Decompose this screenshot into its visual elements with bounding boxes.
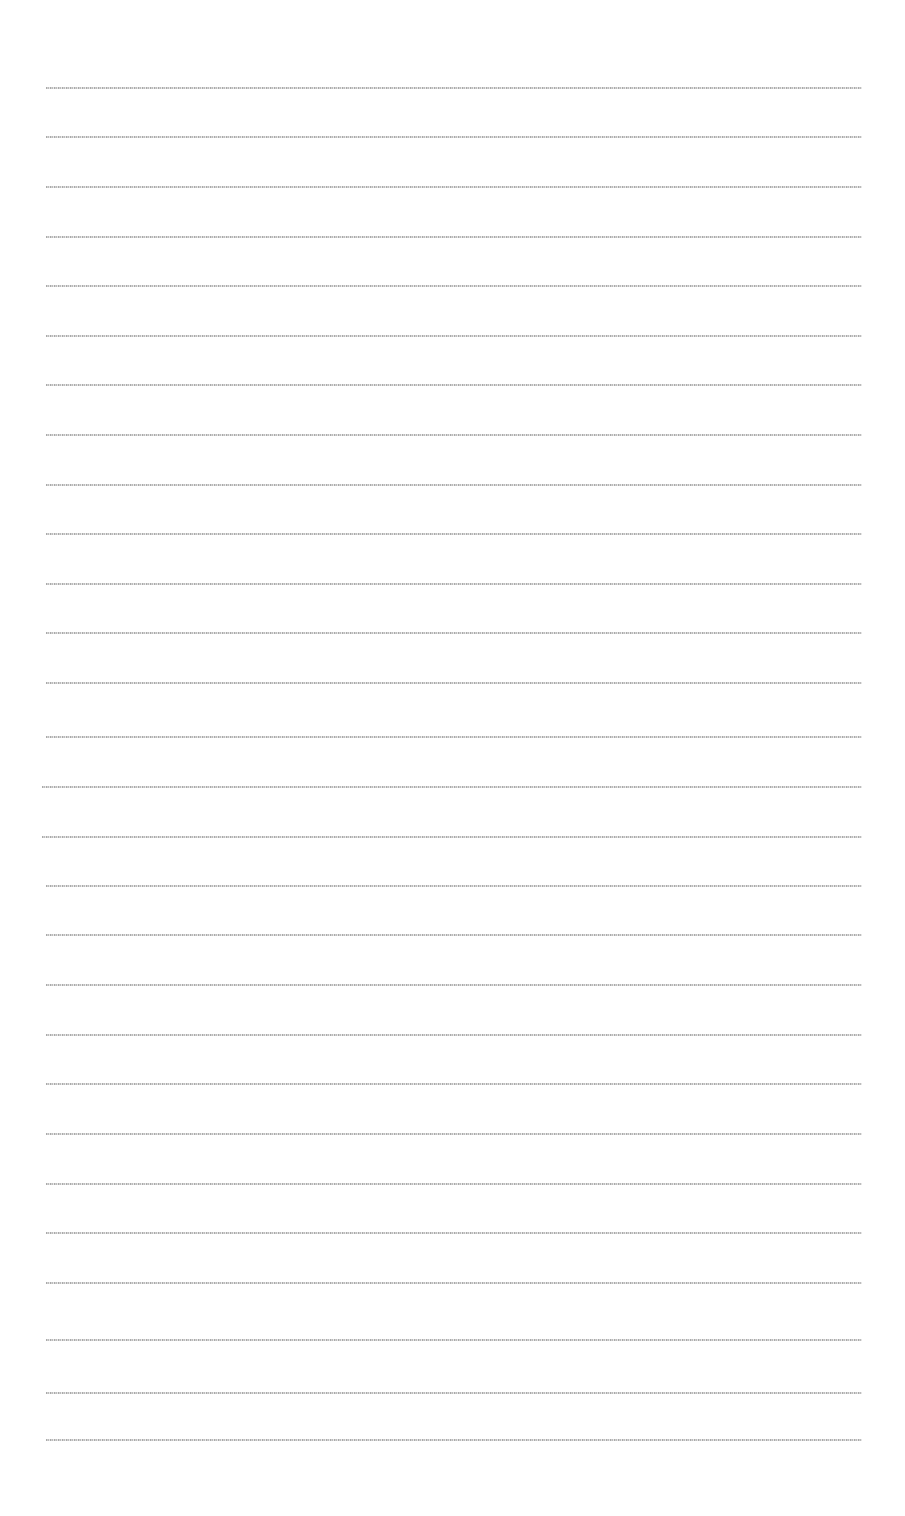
text-line: [illegible]: [46, 1034, 862, 1036]
text-line-content: [illegible]: [46, 1083, 47, 1084]
text-line-content: [illegible]: [46, 186, 47, 187]
text-line-content: [illegible]: [46, 384, 47, 385]
text-line: [illegible]: [46, 533, 862, 535]
text-line: [illegible]: [46, 885, 862, 887]
text-line-content: [illegible]: [46, 934, 47, 935]
text-line: [illegible]: [46, 236, 862, 238]
text-line: [illegible]: [46, 583, 862, 585]
text-line-content: [illegible]: [46, 1133, 47, 1134]
text-line: [illegible]: [46, 384, 862, 386]
text-line: [illegible]: [46, 1392, 862, 1394]
text-line-content: [illegible]: [46, 583, 47, 584]
text-line: [illegible]: [46, 1339, 862, 1341]
text-line-content: [illegible]: [46, 533, 47, 534]
text-line: [illegible]: [46, 186, 862, 188]
text-line: [illegible]: [46, 682, 862, 684]
text-line-content: [illegible]: [46, 285, 47, 286]
text-line-content: [illegible]: [46, 885, 47, 886]
text-line-content: [illegible]: [46, 736, 47, 737]
text-line-content: [illegible]: [46, 484, 47, 485]
text-line: [illegible]: [46, 1282, 862, 1284]
text-line: [illegible]: [46, 1183, 862, 1185]
text-line-content: [illegible]: [46, 87, 47, 88]
text-line: [illegible]: [46, 1133, 862, 1135]
text-line: [illegible]: [42, 786, 862, 788]
text-line: [illegible]: [46, 1232, 862, 1234]
text-line-content: [illegible]: [46, 136, 47, 137]
text-line-content: [illegible]: [46, 1439, 47, 1440]
text-line-content: [illegible]: [46, 236, 47, 237]
text-line-content: [illegible]: [46, 1392, 47, 1393]
text-line: [illegible]: [46, 1439, 862, 1441]
text-line-content: [illegible]: [46, 632, 47, 633]
text-line: [illegible]: [46, 434, 862, 436]
text-line-content: [illegible]: [46, 434, 47, 435]
text-line: [illegible]: [46, 632, 862, 634]
text-line-content: [illegible]: [42, 786, 43, 787]
document-page: [illegible][illegible][illegible][illegi…: [0, 0, 905, 1516]
text-line-content: [illegible]: [46, 1183, 47, 1184]
text-line: [illegible]: [46, 736, 862, 738]
text-line-content: [illegible]: [46, 1232, 47, 1233]
text-line: [illegible]: [46, 984, 862, 986]
text-line-content: [illegible]: [46, 1034, 47, 1035]
text-line-content: [illegible]: [46, 335, 47, 336]
text-line-content: [illegible]: [46, 1282, 47, 1283]
text-line: [illegible]: [46, 1083, 862, 1085]
text-line: [illegible]: [46, 87, 862, 89]
text-line: [illegible]: [42, 836, 862, 838]
text-line: [illegible]: [46, 285, 862, 287]
text-line-content: [illegible]: [46, 1339, 47, 1340]
text-line: [illegible]: [46, 934, 862, 936]
text-line: [illegible]: [46, 136, 862, 138]
text-line: [illegible]: [46, 484, 862, 486]
text-line-content: [illegible]: [42, 836, 43, 837]
text-line-content: [illegible]: [46, 984, 47, 985]
text-line: [illegible]: [46, 335, 862, 337]
text-line-content: [illegible]: [46, 682, 47, 683]
